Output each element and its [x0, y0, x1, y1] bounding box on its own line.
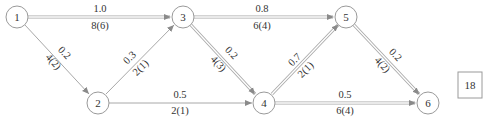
node-1: 1 — [6, 6, 28, 28]
node-6-label: 6 — [425, 97, 431, 109]
edge-3-5-weight: 0.8 — [255, 3, 268, 14]
edge-2-4-time: 2(1) — [171, 105, 189, 117]
edge-5-6: 0.2 4(2) — [354, 25, 420, 95]
edge-4-5: 0.7 2(1) — [272, 25, 339, 95]
edge-5-6-time: 4(2) — [372, 54, 393, 75]
edge-3-4-weight: 0.2 — [223, 44, 240, 61]
edge-2-3: 0.3 2(1) — [106, 25, 174, 94]
edge-1-2: 0.2 4(2) — [25, 25, 89, 94]
node-6: 6 — [417, 92, 439, 114]
node-3: 3 — [172, 6, 194, 28]
node-4-label: 4 — [261, 97, 267, 109]
edge-3-4-time: 4(3) — [208, 53, 229, 74]
edge-1-3: 1.0 8(6) — [28, 3, 171, 32]
edge-4-6: 0.5 6(4) — [275, 89, 416, 117]
node-2-label: 2 — [95, 97, 101, 109]
edge-1-3-weight: 1.0 — [93, 3, 106, 14]
edge-2-4: 0.5 2(1) — [109, 89, 252, 117]
edge-3-4: 0.2 4(3) — [191, 25, 255, 95]
node-4: 4 — [253, 92, 275, 114]
edge-1-3-time: 8(6) — [91, 20, 109, 32]
node-2: 2 — [87, 92, 109, 114]
node-1-label: 1 — [14, 11, 20, 23]
node-5: 5 — [335, 6, 357, 28]
edge-4-6-time: 6(4) — [336, 105, 354, 117]
edge-2-4-weight: 0.5 — [173, 89, 186, 100]
result-box: 18 — [458, 72, 482, 98]
edge-4-6-weight: 0.5 — [338, 89, 351, 100]
network-diagram: 1.0 8(6) 0.2 4(2) 0.3 2(1) 0.5 2(1) 0.8 … — [0, 0, 485, 127]
node-3-label: 3 — [180, 11, 186, 23]
edge-3-5-time: 6(4) — [253, 20, 271, 32]
result-box-value: 18 — [465, 79, 477, 91]
node-5-label: 5 — [343, 11, 349, 23]
edge-3-5: 0.8 6(4) — [194, 3, 334, 32]
